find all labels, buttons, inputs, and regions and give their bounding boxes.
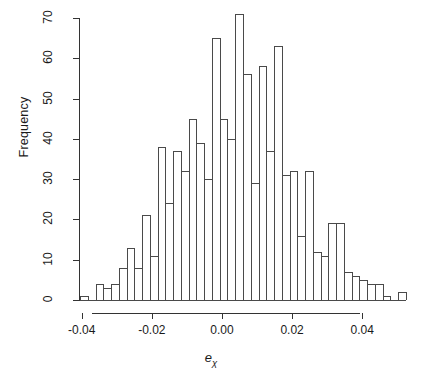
x-axis-line bbox=[92, 313, 360, 314]
x-axis-tick bbox=[152, 313, 153, 319]
x-axis-title-subscript: χ bbox=[212, 357, 217, 368]
x-axis-tick bbox=[362, 313, 363, 319]
x-axis-title-base: e bbox=[205, 350, 212, 365]
x-axis-tick bbox=[292, 313, 293, 319]
x-axis-title: eχ bbox=[0, 350, 422, 368]
histogram-baseline bbox=[80, 300, 406, 301]
x-axis-tick-label: 0.02 bbox=[262, 323, 322, 337]
x-axis-tick bbox=[222, 313, 223, 319]
histogram-bar bbox=[398, 292, 407, 300]
x-axis-tick-label: -0.04 bbox=[52, 323, 112, 337]
x-axis-tick-label: -0.02 bbox=[122, 323, 182, 337]
histogram-plot: Frequency 010203040506070 -0.04-0.020.00… bbox=[0, 0, 422, 384]
x-axis-tick-label: 0.00 bbox=[192, 323, 252, 337]
x-axis-tick bbox=[82, 313, 83, 319]
x-axis-tick-label: 0.04 bbox=[332, 323, 392, 337]
